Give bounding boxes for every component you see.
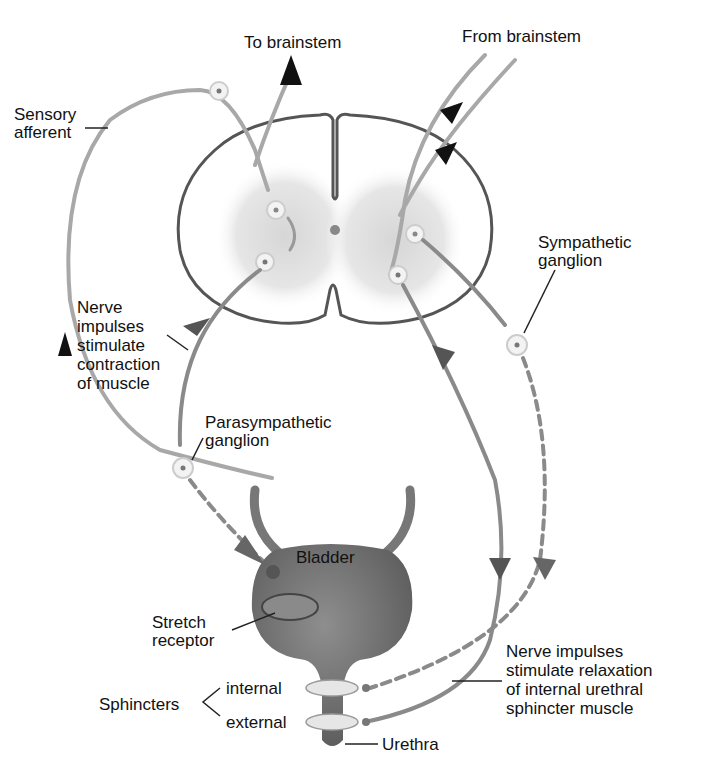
label-sphincters: Sphincters bbox=[99, 695, 179, 714]
label-urethra: Urethra bbox=[382, 735, 439, 754]
interneuron-core bbox=[274, 208, 279, 213]
to-brainstem-arrow-icon bbox=[280, 55, 302, 85]
label-parasympathetic-ganglion: Parasympathetic ganglion bbox=[205, 413, 336, 450]
ureter-right bbox=[383, 490, 411, 555]
motor-neuron-left-core bbox=[263, 260, 268, 265]
bracket-sphincters bbox=[203, 688, 220, 716]
dorsal-root-ganglion-core bbox=[217, 89, 222, 94]
stretch-receptor bbox=[262, 594, 318, 620]
leader-sympathetic-ganglion bbox=[524, 270, 555, 333]
label-nerve-contraction: Nerve impulses stimulate contraction of … bbox=[77, 298, 165, 393]
leader-parasympathetic-ganglion bbox=[192, 438, 203, 460]
sympathetic-neuron-core bbox=[413, 232, 418, 237]
external-sphincter bbox=[306, 714, 358, 730]
central-canal bbox=[330, 225, 340, 235]
somatic-arrow-2-icon bbox=[489, 558, 511, 580]
leader-nerve-contraction bbox=[167, 335, 188, 350]
internal-sphincter-nerve-ending bbox=[362, 684, 370, 692]
ureter-left bbox=[254, 490, 282, 555]
from-brainstem-arrow-2-icon bbox=[435, 142, 457, 165]
bladder-innervation-diagram: To brainstem From brainstem Sensory affe… bbox=[0, 0, 702, 762]
label-bladder: Bladder bbox=[296, 548, 355, 567]
sympathetic-ganglion-core bbox=[515, 343, 520, 348]
label-stretch-receptor: Stretch receptor bbox=[152, 613, 215, 650]
gray-matter-right bbox=[325, 165, 465, 315]
sensory-arrow-up-icon bbox=[58, 332, 72, 356]
somatic-motor-neuron-core bbox=[396, 273, 401, 278]
label-to-brainstem: To brainstem bbox=[244, 33, 341, 52]
somatic-motor-nerve bbox=[365, 285, 501, 722]
label-sympathetic-ganglion: Sympathetic ganglion bbox=[538, 233, 636, 270]
external-sphincter-nerve-ending bbox=[362, 718, 370, 726]
label-from-brainstem: From brainstem bbox=[462, 27, 581, 46]
label-internal: internal bbox=[226, 679, 282, 698]
label-external: external bbox=[226, 713, 286, 732]
label-nerve-relaxation: Nerve impulses stimulate relaxation of i… bbox=[506, 642, 657, 718]
bladder-nerve-ending bbox=[266, 565, 280, 579]
label-sensory-afferent: Sensory afferent bbox=[14, 105, 81, 142]
internal-sphincter bbox=[306, 680, 358, 696]
somatic-arrow-1-icon bbox=[432, 345, 455, 370]
bladder bbox=[252, 490, 412, 746]
parasympathetic-ganglion-core bbox=[181, 466, 186, 471]
